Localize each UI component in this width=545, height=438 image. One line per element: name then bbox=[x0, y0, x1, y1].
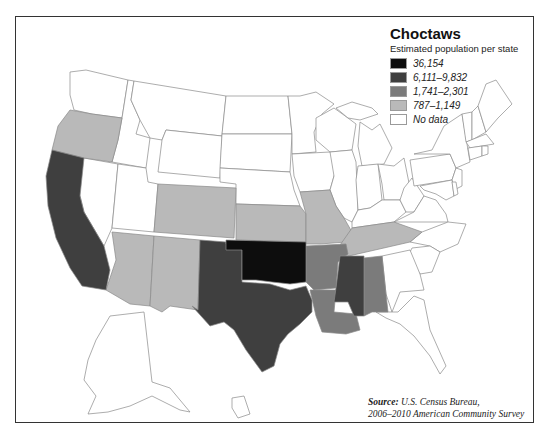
state-new-mexico bbox=[150, 236, 200, 312]
legend-title: Choctaws bbox=[390, 25, 530, 42]
state-rhode-island bbox=[482, 146, 488, 156]
legend-swatch bbox=[390, 114, 407, 125]
state-connecticut bbox=[468, 146, 482, 160]
state-alaska bbox=[84, 312, 190, 414]
state-hawaii bbox=[232, 396, 250, 418]
state-kansas bbox=[236, 204, 306, 242]
state-washington bbox=[70, 70, 128, 118]
state-mississippi bbox=[334, 256, 364, 316]
source-prefix: Source: bbox=[368, 397, 399, 407]
state-north-dakota bbox=[222, 96, 292, 134]
legend-swatch bbox=[390, 86, 407, 97]
legend: Choctaws Estimated population per state … bbox=[390, 25, 530, 127]
state-arizona bbox=[106, 232, 154, 306]
source-line1: U.S. Census Bureau, bbox=[401, 397, 480, 407]
legend-subtitle: Estimated population per state bbox=[390, 43, 530, 54]
legend-label: 1,741–2,301 bbox=[413, 86, 469, 97]
state-wyoming bbox=[158, 130, 222, 178]
legend-item: 1,741–2,301 bbox=[390, 85, 530, 98]
source-line2: 2006–2010 American Community Survey bbox=[368, 409, 524, 419]
legend-swatch bbox=[390, 58, 407, 69]
legend-label: No data bbox=[413, 114, 448, 125]
legend-label: 6,111–9,832 bbox=[413, 72, 467, 83]
legend-item: No data bbox=[390, 113, 530, 126]
state-utah bbox=[112, 164, 158, 232]
source-note: Source: U.S. Census Bureau, 2006–2010 Am… bbox=[368, 396, 524, 420]
legend-item: 36,154 bbox=[390, 57, 530, 70]
state-colorado bbox=[154, 184, 236, 238]
state-michigan bbox=[358, 122, 392, 166]
legend-label: 36,154 bbox=[413, 58, 444, 69]
legend-item: 6,111–9,832 bbox=[390, 71, 530, 84]
state-south-dakota bbox=[220, 134, 292, 172]
legend-label: 787–1,149 bbox=[413, 100, 460, 111]
legend-item: 787–1,149 bbox=[390, 99, 530, 112]
legend-swatch bbox=[390, 100, 407, 111]
legend-swatch bbox=[390, 72, 407, 83]
